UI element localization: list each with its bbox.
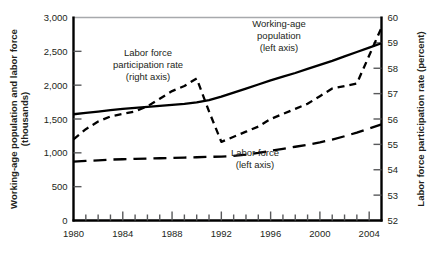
- annotation-line: Labor force: [124, 47, 172, 58]
- right-axis-tick-label: 56: [388, 114, 399, 125]
- left-axis-tick-label: 2,000: [44, 80, 68, 91]
- right-axis-tick-label: 57: [388, 88, 399, 99]
- left-axis-tick-label: 1,000: [44, 147, 68, 158]
- annotation-line: (left axis): [260, 42, 299, 53]
- right-axis-tick-label: 60: [388, 12, 399, 23]
- right-axis-tick-label: 58: [388, 63, 399, 74]
- x-axis-tick-label: 1984: [112, 228, 133, 239]
- left-axis-tick-label: 1,500: [44, 114, 68, 125]
- annotation-line: (left axis): [236, 159, 275, 170]
- series-line-0: [74, 43, 382, 114]
- line-chart: 05001,0001,5002,0002,5003,00052535455565…: [0, 0, 440, 262]
- annotation-line: population: [257, 30, 301, 41]
- working-age-population-label: Working-agepopulation(left axis): [252, 18, 306, 53]
- chart-figure: 05001,0001,5002,0002,5003,00052535455565…: [0, 0, 440, 262]
- annotation-line: participation rate: [113, 59, 183, 70]
- annotation-line: Working-age: [252, 18, 306, 29]
- right-axis-tick-label: 59: [388, 37, 399, 48]
- right-axis-tick-label: 53: [388, 190, 399, 201]
- x-axis-tick-label: 1988: [161, 228, 182, 239]
- right-axis-tick-label: 55: [388, 139, 399, 150]
- left-axis-tick-label: 2,500: [44, 46, 68, 57]
- left-axis-tick-label: 0: [62, 215, 67, 226]
- left-axis-title-line1: Working-age population and labor force: [8, 29, 19, 209]
- right-axis-tick-label: 52: [388, 215, 399, 226]
- x-axis-tick-label: 1980: [63, 228, 84, 239]
- right-axis-tick-label: 54: [388, 164, 399, 175]
- labor-force-participation-label: Labor forceparticipation rate(right axis…: [113, 47, 183, 82]
- series-line-1: [74, 124, 382, 161]
- labor-force-label: Labor force(left axis): [231, 147, 279, 170]
- annotation-line: Labor force: [231, 147, 279, 158]
- left-axis-tick-label: 500: [52, 181, 68, 192]
- x-axis-tick-label: 2004: [359, 228, 380, 239]
- annotation-line: (right axis): [126, 71, 170, 82]
- series-line-2: [74, 28, 382, 142]
- left-axis-title-line2: (thousands): [19, 92, 30, 146]
- left-axis-tick-label: 3,000: [44, 12, 68, 23]
- x-axis-tick-label: 2000: [309, 228, 330, 239]
- right-axis-title: Labor force participation rate (percent): [415, 31, 426, 206]
- x-axis-tick-label: 1992: [211, 228, 232, 239]
- x-axis-tick-label: 1996: [260, 228, 281, 239]
